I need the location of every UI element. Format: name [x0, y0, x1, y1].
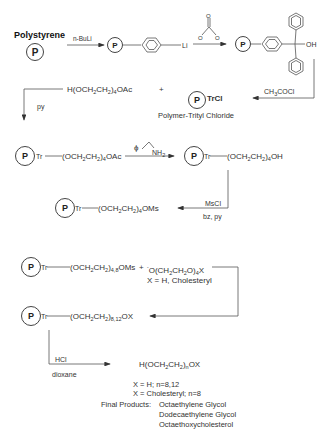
plus-sign: + [159, 85, 164, 94]
polymer-circle: P [107, 37, 123, 53]
tr-ox-chain: (OCH2CH2)8,12OX [70, 312, 133, 321]
trityl-label: Tr [41, 312, 47, 321]
carbonate-o-top: O [206, 12, 211, 21]
polymer-circle: P [235, 36, 251, 52]
final-product-3: Octaethoxycholesterol [159, 420, 233, 429]
plus-sign: + [139, 263, 144, 272]
polymer-circle: P [21, 306, 41, 326]
polymer-circle: P [21, 257, 41, 277]
final-formula: H(OCH2CH2)nOX [139, 360, 200, 369]
x-definition: X = H, Cholesteryl [147, 276, 212, 285]
trityl-label: Tr [36, 152, 42, 161]
tr-oac-chain: (OCH2CH2)4OAc [62, 152, 121, 161]
final-product-1: Octaethylene Glycol [159, 400, 226, 409]
tr-oms-48-chain: (OCH2CH2)4,8OMs [70, 263, 135, 272]
polymer-circle: P [15, 146, 35, 166]
polymer-circle: P [188, 91, 206, 109]
tr-oh-chain: (OCH2CH2)4OH [227, 152, 283, 161]
carbonate-o-left: O [198, 34, 203, 43]
trityl-label: Tr [75, 204, 81, 213]
polystyrene-label: Polystyrene [14, 31, 65, 40]
case-x-h: X = H; n=8,12 [133, 380, 179, 389]
reagent-nbuli: n-BuLi [73, 34, 92, 43]
polymer-trityl-chloride-name: Polymer-Trityl Chloride [158, 111, 234, 120]
polymer-circle: P [55, 198, 75, 218]
final-product-2: Dodecaethylene Glycol [159, 410, 236, 419]
polymer-circle: P [184, 146, 204, 166]
tr-oms-chain: (OCH2CH2)4OMs [98, 204, 159, 213]
hydroxyl-label: OH [306, 40, 317, 49]
case-x-cholesteryl: X = Cholesteryl; n=8 [133, 389, 201, 398]
final-products-label: Final Products: [101, 400, 151, 409]
carbonate-o-right: O [215, 34, 220, 43]
lithium-label: Li [182, 41, 187, 50]
reagent-hcl: HCl [55, 355, 67, 364]
condition-bz-py: bz, py [203, 212, 222, 221]
polymer-circle: P [26, 43, 44, 61]
tetraethylene-glycol-acetate: H(OCH2CH2)4OAc [67, 85, 132, 94]
trityl-chloride-label: TrCl [207, 94, 223, 103]
condition-dioxane: dioxane [52, 370, 77, 379]
alkoxide-nucleophile: -O(CH2CH2O)4X [147, 263, 204, 275]
condition-py: py [37, 102, 44, 111]
reagent-mscl: MsCl [205, 199, 221, 208]
reagent-acetyl-chloride: CH3COCl [264, 87, 294, 96]
phenyl-symbol: ϕ [134, 143, 138, 152]
trityl-label: Tr [204, 152, 210, 161]
amine-label: NH2 [152, 148, 165, 157]
trityl-label: Tr [41, 263, 47, 272]
